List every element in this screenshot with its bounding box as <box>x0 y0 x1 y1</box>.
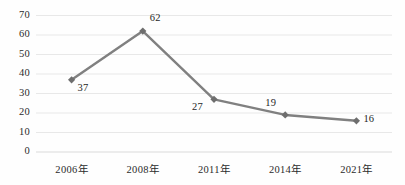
data-point-marker <box>353 117 360 124</box>
line-chart: 010203040506070 2006年2008年2011年2014年2021… <box>0 0 405 185</box>
y-tick-label: 40 <box>4 67 30 78</box>
data-point-label: 16 <box>363 113 374 124</box>
data-point-label: 37 <box>78 82 89 93</box>
y-tick-label: 30 <box>4 87 30 98</box>
x-tick-label: 2014年 <box>250 161 321 176</box>
data-point-marker <box>282 111 289 118</box>
chart-canvas <box>0 0 405 185</box>
x-tick-label: 2006年 <box>36 161 107 176</box>
data-point-label: 27 <box>192 101 203 112</box>
data-point-label: 19 <box>265 97 276 108</box>
x-tick-label: 2011年 <box>178 161 249 176</box>
x-tick-label: 2021年 <box>321 161 392 176</box>
y-tick-label: 60 <box>4 28 30 39</box>
data-point-markers <box>68 28 360 125</box>
x-tick-label: 2008年 <box>107 161 178 176</box>
y-tick-label: 50 <box>4 48 30 59</box>
y-tick-label: 70 <box>4 9 30 20</box>
data-point-label: 62 <box>150 12 161 23</box>
y-tick-label: 0 <box>4 145 30 156</box>
y-tick-label: 10 <box>4 126 30 137</box>
y-tick-label: 20 <box>4 106 30 117</box>
gridlines <box>36 16 392 153</box>
series-line <box>72 31 357 121</box>
